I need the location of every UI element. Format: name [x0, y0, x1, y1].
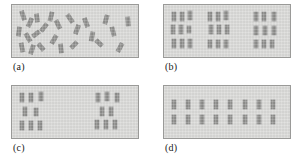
panel-b-mark — [272, 26, 276, 35]
panel-b-mark — [172, 39, 176, 48]
panel-c-mark — [95, 120, 99, 129]
panel-a-mark — [34, 14, 39, 22]
panel-d-mark — [228, 115, 232, 124]
panel-d-mark — [271, 100, 275, 109]
panel-d-mark — [214, 100, 218, 109]
panel-d-mark — [214, 115, 218, 124]
panel-c-mark — [104, 120, 108, 129]
panel-a-mark — [89, 32, 95, 42]
panel-d-mark — [172, 115, 176, 124]
panel-c-mark — [39, 92, 43, 101]
panel-d-mark — [257, 100, 261, 109]
panel-c-plot-area — [11, 85, 139, 139]
panel-a-mark — [48, 12, 54, 22]
panel-a-mark — [95, 39, 104, 47]
panel-a-mark — [16, 27, 21, 36]
panel-d-mark — [271, 115, 275, 124]
panel-b-label: (b) — [165, 61, 177, 73]
panel-c-mark — [109, 107, 113, 116]
panel-b-mark — [208, 40, 212, 48]
panel-d-mark — [228, 100, 232, 109]
panel-a-mark — [59, 44, 64, 53]
panel-c-mark — [38, 121, 42, 130]
panel-d-mark — [200, 100, 204, 109]
panel-c-mark — [34, 108, 38, 116]
panel-d-mark — [186, 100, 190, 109]
panel-a-plot-area — [11, 4, 139, 58]
panel-d-mark — [172, 100, 176, 109]
panel-a-mark — [37, 43, 45, 52]
panel-a-mark — [54, 20, 62, 30]
panel-b-mark — [209, 25, 213, 34]
panel-d-mark — [243, 100, 247, 109]
panel-b-mark — [224, 40, 228, 48]
panel-a-mark — [110, 27, 116, 37]
panel-a-mark — [20, 11, 27, 21]
panel-b-mark — [179, 25, 183, 34]
panel-c-mark — [100, 107, 104, 116]
panel-a-mark — [70, 41, 78, 50]
panel-b-mark — [263, 26, 267, 35]
panel-b-mark — [208, 12, 212, 21]
panel-b-mark — [254, 40, 258, 48]
panel-a-mark — [50, 35, 58, 45]
panel-a-mark — [83, 18, 90, 28]
panel-b-mark — [262, 12, 266, 21]
panel-a-mark — [103, 15, 109, 25]
panel-a-mark — [66, 14, 74, 24]
panel-c-mark — [113, 120, 117, 129]
four-panel-spatial-pattern-figure: (a)(b)(c)(d) — [0, 0, 302, 162]
panel-c-mark — [20, 93, 24, 102]
panel-c-mark — [20, 121, 24, 130]
panel-a-label: (a) — [13, 61, 25, 73]
panel-a-mark — [32, 30, 41, 38]
panel-b-mark — [180, 12, 184, 21]
panel-d-mark — [243, 115, 247, 124]
panel-c-mark — [115, 93, 119, 102]
panel-b-mark — [272, 12, 276, 21]
panel-b-mark — [172, 12, 176, 21]
panel-b-mark — [216, 40, 220, 48]
panel-c-mark — [105, 92, 109, 101]
panel-c-mark — [29, 121, 33, 130]
panel-b-mark — [262, 40, 266, 48]
panel-a-mark — [29, 45, 36, 55]
panel-b-plot-area — [163, 4, 291, 58]
panel-b-mark — [270, 40, 274, 48]
panel-b-mark — [225, 25, 229, 34]
panel-d-label: (d) — [165, 142, 177, 154]
panel-b-mark — [217, 25, 221, 34]
panel-d-mark — [257, 115, 261, 124]
panel-a-mark — [74, 25, 81, 35]
panel-c-mark — [96, 93, 100, 102]
panel-b-mark — [188, 39, 192, 48]
panel-d-mark — [200, 115, 204, 124]
panel-a-mark — [126, 17, 131, 26]
panel-b-mark — [187, 26, 191, 33]
panel-d-plot-area — [163, 85, 291, 139]
panel-a-mark — [116, 43, 124, 53]
panel-b-mark — [254, 26, 258, 35]
panel-c-mark — [23, 107, 27, 116]
panel-a-mark — [40, 23, 49, 33]
panel-a-mark — [19, 43, 25, 53]
panel-d-mark — [186, 115, 190, 124]
panel-b-mark — [254, 12, 258, 21]
panel-b-mark — [180, 39, 184, 48]
panel-b-mark — [216, 12, 220, 21]
panel-b-mark — [188, 11, 192, 20]
panel-a-mark — [26, 18, 33, 28]
panel-c-label: (c) — [13, 142, 25, 154]
panel-b-mark — [171, 25, 175, 34]
panel-b-mark — [224, 11, 228, 20]
panel-c-mark — [29, 93, 33, 102]
